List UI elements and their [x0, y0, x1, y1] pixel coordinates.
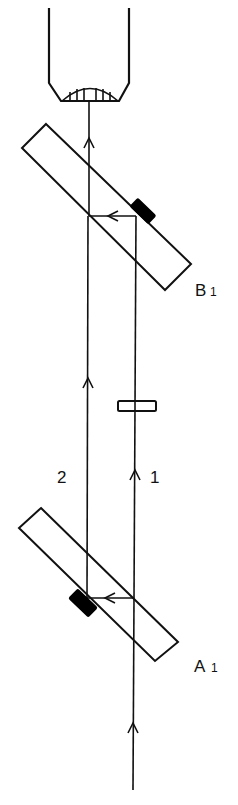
label-beam-1: 1	[150, 468, 159, 487]
detector-dome	[62, 88, 118, 101]
label-b1-main: B	[195, 281, 206, 300]
label-beam-2: 2	[57, 468, 66, 487]
compensator-plate	[118, 401, 156, 411]
reflected-ray-b1	[89, 211, 136, 221]
plate-b1	[22, 124, 191, 290]
beam-2	[83, 102, 94, 598]
label-b1-sub: 1	[210, 285, 217, 299]
plate-a1	[19, 508, 178, 661]
label-a1-main: A	[194, 657, 206, 676]
plate-a1-block	[68, 588, 98, 618]
label-a1-sub: 1	[211, 661, 218, 675]
detector-tube	[49, 8, 129, 101]
optical-diagram: B 1 A 1 2 1	[0, 0, 238, 805]
plate-b1-block	[129, 198, 156, 225]
beam-1	[128, 216, 140, 790]
